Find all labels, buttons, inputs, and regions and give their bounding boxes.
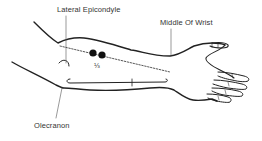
arm-drawing: [0, 0, 262, 141]
arm-diagram: Lateral Epicondyle Middle Of Wrist Olecr…: [0, 0, 262, 141]
label-one-third: ⅓: [94, 62, 100, 69]
label-lateral-epicondyle: Lateral Epicondyle: [57, 5, 121, 14]
elbow-crease: [59, 60, 69, 66]
label-olecranon: Olecranon: [34, 121, 70, 130]
marker-dot-2: [98, 51, 105, 58]
upper-arm-outline-top: [34, 22, 225, 56]
leader-olecranon: [56, 88, 62, 118]
label-middle-of-wrist: Middle Of Wrist: [160, 18, 213, 27]
marker-dot-1: [89, 49, 96, 56]
dotted-reference-line: [60, 46, 170, 72]
ulna-bracket: [67, 79, 167, 83]
lower-arm-outline: [12, 62, 217, 101]
fingers: [207, 72, 249, 102]
